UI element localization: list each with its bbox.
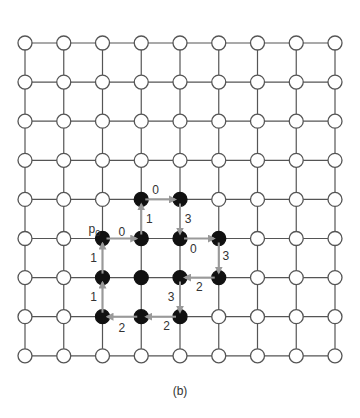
grid-node (18, 271, 32, 285)
grid-node (173, 36, 187, 50)
chain-code-label: 2 (196, 280, 203, 294)
grid-node (134, 349, 148, 363)
grid-node (173, 114, 187, 128)
grid-node (57, 75, 71, 89)
grid-node (212, 153, 226, 167)
grid-node (96, 153, 110, 167)
grid-node (289, 310, 303, 324)
grid-node (289, 36, 303, 50)
grid-node (57, 114, 71, 128)
chain-code-label: 3 (185, 212, 192, 226)
grid-node (173, 153, 187, 167)
chain-code-label: 0 (190, 242, 197, 256)
grid-node (18, 349, 32, 363)
grid-node (18, 114, 32, 128)
chain-code-labels: 010303232211 (90, 183, 229, 334)
grid-node (96, 114, 110, 128)
grid-node (289, 114, 303, 128)
chain-code-label: 1 (90, 251, 97, 265)
grid-node (251, 192, 265, 206)
chain-code-label: 1 (146, 212, 153, 226)
grid-node (251, 310, 265, 324)
grid-node (328, 192, 342, 206)
grid-node (18, 310, 32, 324)
grid-node (134, 153, 148, 167)
chain-code-label: 2 (119, 321, 126, 335)
grid-node (328, 232, 342, 246)
start-point-p0: p0 (89, 222, 101, 238)
grid-node (212, 310, 226, 324)
chain-code-label: 0 (152, 183, 159, 197)
chain-code-label: 2 (163, 319, 170, 333)
grid-node (251, 349, 265, 363)
grid-node (96, 192, 110, 206)
grid-nodes (18, 36, 342, 363)
grid-node (328, 36, 342, 50)
grid-node (96, 349, 110, 363)
grid-node (251, 153, 265, 167)
grid-node (251, 271, 265, 285)
grid-node (251, 114, 265, 128)
grid-node (289, 192, 303, 206)
grid-node (18, 75, 32, 89)
grid-node (18, 153, 32, 167)
grid-node (289, 153, 303, 167)
grid-node (57, 349, 71, 363)
grid-node (57, 232, 71, 246)
grid-node (328, 114, 342, 128)
grid-node (328, 271, 342, 285)
grid-node (328, 310, 342, 324)
grid-node (212, 349, 226, 363)
grid-node (173, 349, 187, 363)
chain-code-label: 0 (119, 225, 126, 239)
grid-node (289, 75, 303, 89)
grid-node (328, 349, 342, 363)
grid-node (212, 114, 226, 128)
grid-node (289, 271, 303, 285)
grid-node (57, 153, 71, 167)
grid-node (328, 75, 342, 89)
grid-node (18, 192, 32, 206)
chain-code-label: 1 (90, 290, 97, 304)
grid-node (57, 192, 71, 206)
chain-code-grid-diagram: 010303232211 p0 (0, 0, 360, 418)
chain-code-arrows (103, 199, 219, 316)
boundary-pixel-node (134, 271, 148, 285)
grid-node (134, 75, 148, 89)
grid-node (173, 75, 187, 89)
grid-node (251, 232, 265, 246)
grid-node (289, 232, 303, 246)
grid-node (212, 36, 226, 50)
chain-code-label: 3 (168, 290, 175, 304)
start-point-label: p0 (89, 222, 101, 238)
grid-node (96, 36, 110, 50)
grid-node (251, 36, 265, 50)
grid-node (57, 310, 71, 324)
grid-node (134, 36, 148, 50)
grid-node (57, 36, 71, 50)
grid-node (212, 192, 226, 206)
figure-caption: (b) (0, 384, 360, 398)
grid-node (57, 271, 71, 285)
grid-node (134, 114, 148, 128)
grid-node (251, 75, 265, 89)
grid-node (289, 349, 303, 363)
grid-node (18, 232, 32, 246)
grid-node (212, 75, 226, 89)
grid-node (18, 36, 32, 50)
grid-node (96, 75, 110, 89)
grid-node (328, 153, 342, 167)
chain-code-label: 3 (222, 249, 229, 263)
